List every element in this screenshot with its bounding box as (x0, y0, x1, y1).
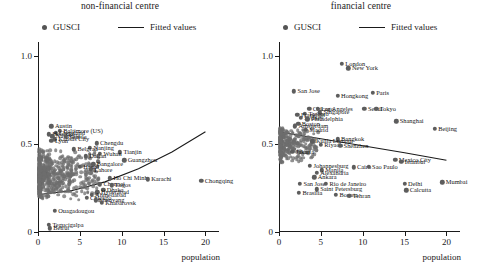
data-point (302, 140, 306, 144)
x-tick-label: 20 (201, 237, 210, 247)
data-point (73, 178, 77, 182)
data-point-label: Lyon (55, 138, 68, 144)
data-point-label: Tianjin (124, 149, 142, 155)
data-point (51, 188, 55, 192)
data-point (63, 178, 67, 182)
data-point (96, 177, 100, 181)
data-point (77, 198, 81, 202)
x-tick-label: 10 (117, 237, 126, 247)
data-point (78, 175, 82, 179)
data-point-label: Calcutta (410, 187, 431, 193)
x-tick (446, 232, 447, 236)
data-point-label: Dalian (89, 153, 106, 159)
x-axis-title-right: population (423, 252, 462, 262)
data-point (69, 169, 73, 173)
data-point (67, 182, 71, 186)
panel-financial-centre: financial centre GUSCI Fitted values pop… (241, 0, 481, 275)
legend-line-icon (118, 27, 144, 28)
data-point (301, 135, 305, 139)
y-tick-label: 0.5 (262, 139, 273, 149)
data-point (61, 167, 65, 171)
data-point (45, 157, 49, 161)
legend-label-gusci: GUSCI (294, 22, 321, 32)
legend-item-gusci: GUSCI (42, 22, 80, 32)
data-point (85, 186, 89, 190)
data-point (79, 181, 83, 185)
panel-non-financial-centre: non-financial centre GUSCI Fitted values… (0, 0, 240, 275)
data-point (54, 148, 58, 152)
data-point (74, 170, 78, 174)
data-point (279, 156, 283, 160)
data-point (47, 186, 51, 190)
data-point (62, 195, 66, 199)
data-point (72, 186, 76, 190)
data-point (58, 157, 62, 161)
data-point-label: Tokyo (380, 106, 396, 112)
x-tick-label: 0 (36, 237, 41, 247)
data-point-label: Ouagadougou (58, 208, 94, 214)
legend-item-fitted: Fitted values (359, 22, 437, 32)
data-point (286, 150, 290, 154)
data-point (38, 174, 42, 178)
legend-label-gusci: GUSCI (53, 22, 80, 32)
data-point-label: Tehran (353, 193, 371, 199)
data-point (49, 159, 53, 163)
x-tick (321, 232, 322, 236)
data-point-label: Hongkong (341, 92, 368, 98)
x-tick-label: 10 (358, 237, 367, 247)
data-point (45, 194, 49, 198)
data-point-label: Brasilia (303, 190, 323, 196)
x-tick-label: 20 (442, 237, 451, 247)
data-point (41, 179, 45, 183)
data-point (295, 158, 299, 162)
data-point (61, 186, 65, 190)
data-point-label: Shanghai (400, 118, 424, 124)
data-point (293, 141, 297, 145)
data-point (278, 139, 282, 143)
x-tick (164, 232, 165, 236)
data-point-label: Istanbul (405, 158, 426, 164)
data-point (59, 179, 63, 183)
legend-marker-dot-icon (42, 25, 47, 30)
data-point (48, 148, 52, 152)
legend-label-fitted: Fitted values (150, 22, 196, 32)
data-point (52, 184, 56, 188)
data-point (38, 157, 42, 161)
data-point-label: Lahore (94, 166, 112, 172)
data-point (38, 186, 42, 190)
x-tick (205, 232, 206, 236)
legend-label-fitted: Fitted values (391, 22, 437, 32)
x-tick-label: 5 (319, 237, 324, 247)
data-point (49, 174, 53, 178)
plot-area-right: population 00.51.005101520LondonNew York… (279, 42, 459, 232)
data-point (69, 190, 73, 194)
data-point-label: Shenzhen (344, 143, 369, 149)
data-point (54, 172, 58, 176)
panel-title-right: financial centre (241, 1, 481, 11)
legend-item-gusci: GUSCI (283, 22, 321, 32)
data-point-label: Guangzhou (128, 157, 157, 163)
data-point-label: Beirut (53, 225, 69, 231)
data-point-label: Sao Paulo (372, 163, 398, 169)
x-tick (405, 232, 406, 236)
y-tick-label: 0 (28, 227, 33, 237)
data-point (279, 130, 283, 134)
y-tick-label: 0 (269, 227, 274, 237)
x-tick (363, 232, 364, 236)
legend-left: GUSCI Fitted values (0, 22, 240, 36)
data-point-label: Chongqing (205, 177, 233, 183)
data-point (59, 149, 63, 153)
legend-marker-dot-icon (283, 25, 288, 30)
data-point (75, 190, 79, 194)
panel-title-left: non-financial centre (0, 1, 240, 11)
data-point-label: Karachi (151, 176, 171, 182)
data-point (278, 143, 282, 147)
x-tick-label: 0 (277, 237, 282, 247)
data-point (282, 147, 286, 151)
y-tick (275, 56, 279, 57)
data-point-label: New York (352, 65, 378, 71)
x-tick (80, 232, 81, 236)
x-tick (38, 232, 39, 236)
data-point-label: Khabarovsk (105, 200, 136, 206)
legend-item-fitted: Fitted values (118, 22, 196, 32)
